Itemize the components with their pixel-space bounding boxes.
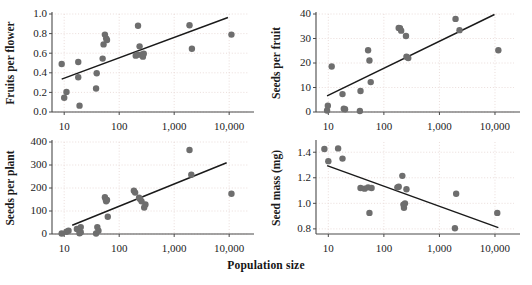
panel-seeds-per-plant: 0100200300400101001,00010,000Seeds per p… bbox=[0, 134, 266, 260]
data-point bbox=[136, 43, 142, 49]
panel-seed-mass: 0.81.01.21.4101001,00010,000Seed mass (m… bbox=[266, 134, 532, 260]
scatter-plot-fruits-per-flower: 0.00.20.40.60.81.0101001,00010,000Fruits… bbox=[0, 2, 266, 134]
data-point bbox=[99, 55, 105, 61]
data-point bbox=[94, 70, 100, 76]
data-point bbox=[104, 197, 110, 203]
data-point bbox=[93, 85, 99, 91]
x-tick-label: 10,000 bbox=[214, 242, 245, 254]
y-axis-title: Fruits per flower bbox=[4, 21, 17, 104]
y-tick-label: 1.0 bbox=[33, 7, 47, 19]
x-tick-label: 100 bbox=[111, 120, 128, 132]
data-point bbox=[335, 145, 341, 151]
trend-line bbox=[327, 166, 498, 228]
x-tick-label: 100 bbox=[376, 242, 393, 254]
data-point bbox=[452, 225, 458, 231]
data-point bbox=[357, 108, 363, 114]
data-point bbox=[132, 189, 138, 195]
y-tick-label: 0.8 bbox=[33, 27, 47, 39]
data-point bbox=[494, 210, 500, 216]
y-axis-title: Seed mass (mg) bbox=[270, 150, 283, 226]
panel-seeds-per-fruit: 010203040101001,00010,000Seeds per fruit bbox=[266, 2, 532, 134]
data-point bbox=[61, 95, 67, 101]
y-tick-label: 0.0 bbox=[33, 105, 47, 117]
data-point bbox=[75, 59, 81, 65]
trend-line bbox=[72, 163, 226, 226]
caption-fragment bbox=[0, 273, 532, 285]
y-tick-label: 1.4 bbox=[297, 146, 311, 158]
y-tick-label: 0 bbox=[42, 227, 48, 239]
data-point bbox=[63, 89, 69, 95]
y-tick-label: 400 bbox=[31, 135, 48, 147]
x-tick-label: 10 bbox=[323, 242, 335, 254]
x-tick-label: 10 bbox=[323, 120, 335, 132]
x-tick-label: 10 bbox=[59, 242, 71, 254]
x-tick-label: 10,000 bbox=[214, 120, 245, 132]
figure-container: 0.00.20.40.60.81.0101001,00010,000Fruits… bbox=[0, 0, 532, 285]
data-point bbox=[75, 74, 81, 80]
data-point bbox=[104, 37, 110, 43]
y-tick-label: 0.8 bbox=[297, 222, 311, 234]
y-tick-label: 100 bbox=[31, 204, 48, 216]
y-tick-label: 0.6 bbox=[33, 47, 47, 59]
data-point bbox=[228, 191, 234, 197]
data-point bbox=[368, 79, 374, 85]
x-tick-label: 100 bbox=[111, 242, 128, 254]
data-point bbox=[495, 47, 501, 53]
y-tick-label: 0.2 bbox=[33, 86, 47, 98]
data-point bbox=[403, 186, 409, 192]
data-point bbox=[228, 31, 234, 37]
data-point bbox=[188, 171, 194, 177]
data-point bbox=[398, 27, 404, 33]
x-tick-label: 1,000 bbox=[427, 120, 452, 132]
y-tick-label: 0.4 bbox=[33, 66, 47, 78]
x-tick-label: 10,000 bbox=[480, 242, 511, 254]
data-point bbox=[342, 106, 348, 112]
data-point bbox=[405, 55, 411, 61]
y-tick-label: 20 bbox=[300, 56, 312, 68]
trend-line bbox=[62, 17, 228, 79]
data-point bbox=[403, 33, 409, 39]
y-tick-label: 300 bbox=[31, 158, 48, 170]
data-point bbox=[186, 22, 192, 28]
scatter-plot-seeds-per-fruit: 010203040101001,00010,000Seeds per fruit bbox=[266, 2, 532, 134]
data-point bbox=[65, 228, 71, 234]
data-point bbox=[339, 155, 345, 161]
data-point bbox=[357, 88, 363, 94]
x-tick-label: 100 bbox=[376, 120, 393, 132]
data-point bbox=[141, 50, 147, 56]
data-point bbox=[95, 228, 101, 234]
data-point bbox=[189, 46, 195, 52]
x-tick-label: 1,000 bbox=[162, 120, 187, 132]
y-tick-label: 1.2 bbox=[297, 171, 311, 183]
y-axis-title: Seeds per plant bbox=[4, 150, 17, 225]
y-tick-label: 0 bbox=[306, 105, 312, 117]
x-tick-label: 10,000 bbox=[480, 120, 511, 132]
y-tick-label: 10 bbox=[300, 81, 312, 93]
data-point bbox=[396, 184, 402, 190]
shared-x-axis-title: Population size bbox=[0, 259, 532, 271]
trend-line bbox=[327, 14, 494, 95]
data-point bbox=[368, 185, 374, 191]
data-point bbox=[142, 201, 148, 207]
y-tick-label: 30 bbox=[300, 32, 312, 44]
data-point bbox=[76, 102, 82, 108]
data-point bbox=[365, 47, 371, 53]
panel-fruits-per-flower: 0.00.20.40.60.81.0101001,00010,000Fruits… bbox=[0, 2, 266, 134]
data-point bbox=[456, 27, 462, 33]
y-axis-title: Seeds per fruit bbox=[270, 27, 283, 99]
data-point bbox=[339, 91, 345, 97]
x-tick-label: 10 bbox=[59, 120, 71, 132]
data-point bbox=[78, 224, 84, 230]
data-point bbox=[325, 158, 331, 164]
y-tick-label: 1.0 bbox=[297, 197, 311, 209]
data-point bbox=[452, 16, 458, 22]
x-tick-label: 1,000 bbox=[427, 242, 452, 254]
data-point bbox=[321, 146, 327, 152]
data-point bbox=[453, 191, 459, 197]
data-point bbox=[402, 200, 408, 206]
data-point bbox=[135, 23, 141, 29]
y-tick-label: 200 bbox=[31, 181, 48, 193]
data-point bbox=[58, 61, 64, 67]
data-point bbox=[325, 102, 331, 108]
data-point bbox=[399, 173, 405, 179]
